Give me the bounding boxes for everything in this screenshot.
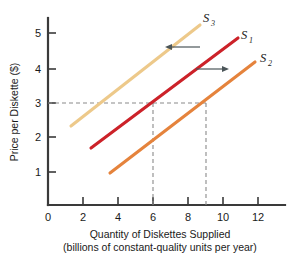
curve-label-s2: S 2 [260,51,272,68]
curve-label-s1: S 1 [241,28,253,45]
x-tick-label-12: 12 [252,211,264,223]
supply-curve-s3 [71,25,200,126]
x-tick-label-0: 0 [45,211,51,223]
x-axis-subtitle: (billions of constant-quality units per … [63,241,257,253]
x-tick-label-2: 2 [80,211,86,223]
y-tick-label-5: 5 [35,27,41,39]
y-axis-tick-labels: 5 4 3 2 1 [35,27,41,178]
y-axis-title: Price per Diskette ($) [8,63,20,162]
y-tick-label-3: 3 [35,97,41,109]
x-axis-tick-labels: 0 2 4 6 8 10 12 [45,211,264,223]
y-tick-label-2: 2 [35,131,41,143]
curve-label-s2-subscript: 2 [268,59,272,68]
x-axis-ticks [83,197,258,205]
curve-label-s3: S 3 [203,11,215,28]
supply-curve-chart: 5 4 3 2 1 0 2 4 6 8 10 12 [0,0,300,258]
y-tick-label-4: 4 [35,63,41,75]
chart-svg: 5 4 3 2 1 0 2 4 6 8 10 12 [0,0,300,258]
curve-label-s3-subscript: 3 [210,19,215,28]
x-tick-label-4: 4 [115,211,121,223]
curve-label-s3-text: S [203,11,210,25]
x-axis-title: Quantity of Diskettes Supplied [90,228,231,240]
curve-label-s1-subscript: 1 [249,36,253,45]
curve-label-s2-text: S [260,51,267,65]
increase-arrow-head [222,66,229,72]
y-tick-label-1: 1 [35,166,41,178]
decrease-arrow [165,44,200,50]
x-tick-label-8: 8 [185,211,191,223]
curve-label-s1-text: S [241,28,248,42]
x-tick-label-10: 10 [217,211,229,223]
x-tick-label-6: 6 [150,211,156,223]
